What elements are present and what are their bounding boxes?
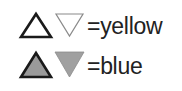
open-up-triangle-icon	[21, 14, 51, 37]
filled-up-triangle-icon	[21, 53, 51, 77]
legend-label-yellow: =yellow	[87, 15, 162, 38]
filled-down-triangle-icon	[55, 52, 84, 77]
legend-row-yellow: =yellow	[0, 0, 182, 40]
legend-row-blue: =blue	[0, 40, 182, 80]
legend-label-blue: =blue	[87, 55, 142, 78]
open-down-triangle-icon	[56, 14, 83, 36]
